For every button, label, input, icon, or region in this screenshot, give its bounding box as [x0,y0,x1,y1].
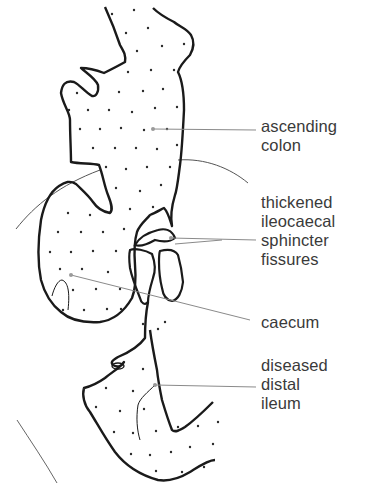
label-line: diseased [261,356,328,375]
label-line: ileum [261,394,328,413]
ileum-inner-line [137,385,155,440]
peritoneum-arc-left [16,170,100,229]
label-line: sphincter [261,231,335,250]
abdominal-wall-line [17,420,57,483]
label-line: ileocaecal [261,212,335,231]
leader-sphincter-a [171,238,256,240]
label-diseased-ileum: diseased distal ileum [261,356,328,413]
sphincter-upper [135,229,175,245]
sphincter-lower-right [159,250,183,301]
label-ascending-colon: ascending colon [261,117,337,155]
label-caecum: caecum [261,313,319,332]
label-line: colon [261,136,337,155]
label-line: caecum [261,313,319,332]
label-line: distal [261,375,328,394]
ascending-colon-outline [38,7,193,322]
leader-ascending-colon [153,129,256,130]
label-thickened-sphincter: thickened ileocaecal sphincter fissures [261,193,335,269]
label-line: fissures [261,250,335,269]
label-line: thickened [261,193,335,212]
peritoneum-arc-upper [178,160,248,183]
leader-sphincter-b [175,240,222,244]
leader-lines [69,127,256,387]
leader-distal-ileum [155,385,256,387]
label-line: ascending [261,117,337,136]
